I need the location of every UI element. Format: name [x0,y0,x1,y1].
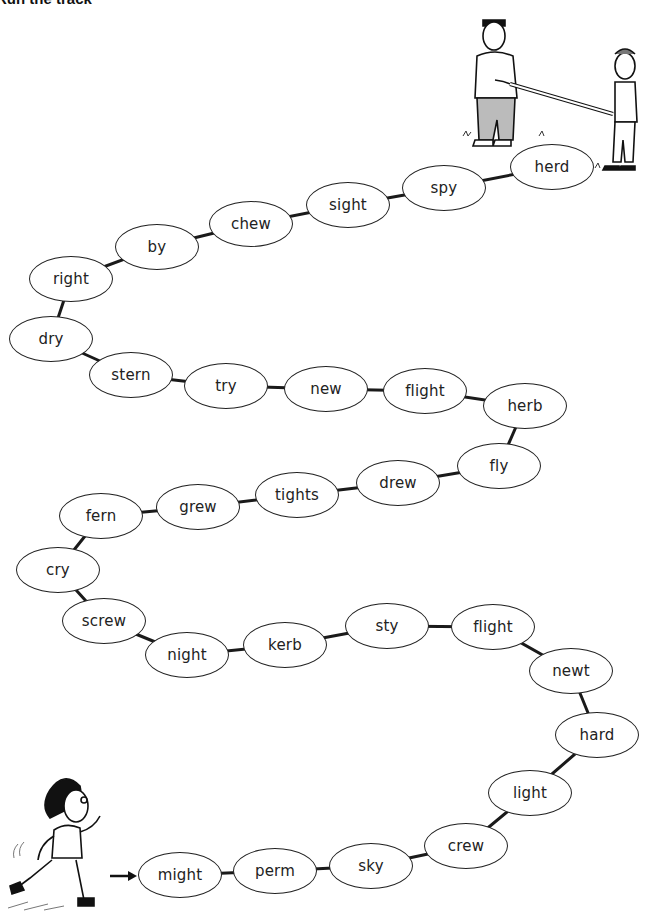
track-word-label: fern [86,507,117,525]
track-word-night[interactable]: night [145,632,229,678]
track-word-grew[interactable]: grew [156,484,240,530]
track-word-kerb[interactable]: kerb [243,622,327,668]
track-word-drew[interactable]: drew [356,460,440,506]
track-word-fern[interactable]: fern [59,493,143,539]
track-word-newt[interactable]: newt [529,648,613,694]
track-word-perm[interactable]: perm [233,848,317,894]
track-word-label: try [215,377,237,395]
track-word-by[interactable]: by [115,224,199,270]
track-word-label: crew [448,837,484,855]
track-word-label: newt [552,662,590,680]
track-word-try[interactable]: try [184,363,268,409]
track-word-flight[interactable]: flight [383,368,467,414]
track-word-might[interactable]: might [138,852,222,898]
track-word-sty[interactable]: sty [345,603,429,649]
track-word-label: hard [580,726,615,744]
track-word-label: by [148,238,167,256]
track-word-flight[interactable]: flight [451,604,535,650]
track-word-label: sty [375,617,398,635]
track-word-crew[interactable]: crew [424,823,508,869]
track-word-label: sky [358,857,383,875]
track-word-label: flight [473,618,513,636]
track-word-tights[interactable]: tights [255,472,339,518]
track-word-spy[interactable]: spy [402,165,486,211]
track-word-label: dry [38,330,63,348]
track-word-label: fly [490,457,509,475]
track-word-label: screw [82,612,126,630]
track-word-label: chew [231,215,271,233]
track-word-sight[interactable]: sight [306,182,390,228]
track-word-label: flight [405,382,445,400]
track-word-label: right [53,270,89,288]
track-word-label: grew [179,498,217,516]
track-word-herb[interactable]: herb [483,383,567,429]
track-word-label: herd [535,158,570,176]
track-word-dry[interactable]: dry [9,316,93,362]
track-word-sky[interactable]: sky [329,843,413,889]
track-word-label: sight [329,196,367,214]
track-word-label: stern [111,366,150,384]
track-word-new[interactable]: new [284,366,368,412]
track-word-label: tights [275,486,319,504]
track-word-label: night [167,646,207,664]
track-word-label: kerb [268,636,302,654]
track-word-label: might [158,866,203,884]
track-word-label: cry [46,561,70,579]
track-word-label: perm [255,862,295,880]
track-word-fly[interactable]: fly [457,443,541,489]
track-word-hard[interactable]: hard [555,712,639,758]
track-word-label: drew [379,474,417,492]
track-word-right[interactable]: right [29,256,113,302]
track-word-label: new [310,380,342,398]
track-word-cry[interactable]: cry [16,547,100,593]
running-boy-illustration [4,770,119,915]
track-word-chew[interactable]: chew [209,201,293,247]
track-word-stern[interactable]: stern [89,352,173,398]
track-word-screw[interactable]: screw [62,598,146,644]
track-word-light[interactable]: light [488,770,572,816]
track-word-label: spy [431,179,458,197]
track-word-label: light [513,784,547,802]
track-word-label: herb [507,397,542,415]
track-word-herd[interactable]: herd [510,144,594,190]
